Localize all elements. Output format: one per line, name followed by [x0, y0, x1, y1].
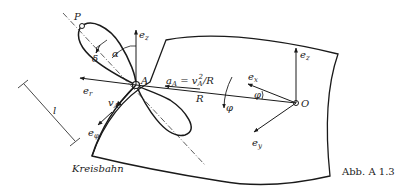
- label-alpha: α: [112, 48, 119, 59]
- label-ephi: eφ: [88, 127, 99, 140]
- va-arrow: [116, 85, 136, 107]
- ey-arrow: [254, 103, 296, 132]
- phi-angle-arc: [262, 91, 263, 99]
- label-p: P: [73, 11, 81, 22]
- label-er: er: [83, 85, 93, 98]
- label-ez-right: ez: [300, 49, 310, 62]
- label-radius: R: [195, 93, 204, 104]
- label-acceleration: aA = vA2/R: [166, 73, 214, 88]
- label-phi-dot: φ: [226, 102, 233, 113]
- length-dimension-line: [24, 84, 75, 141]
- label-ey: ey: [252, 137, 263, 150]
- label-ez-left: ez: [139, 29, 149, 42]
- delta-tick: [96, 40, 107, 48]
- label-ex: ex: [248, 71, 258, 84]
- length-tick-bottom: [70, 138, 80, 146]
- label-a: A: [140, 75, 148, 86]
- figure-caption: Abb. A 1.3: [341, 166, 395, 177]
- label-kreisbahn: Kreisbahn: [71, 163, 124, 174]
- label-o: O: [301, 98, 309, 109]
- physics-diagram: P A ez α δ er R aA = vA2/R vA eφ l Kreis…: [0, 0, 403, 194]
- circular-path: [92, 85, 136, 156]
- label-va: vA: [108, 97, 119, 110]
- petal-upper: [78, 23, 136, 85]
- petal-lower: [136, 85, 191, 135]
- label-phi: φ: [254, 89, 261, 100]
- label-delta: δ: [92, 53, 98, 64]
- label-length: l: [53, 105, 56, 116]
- point-p: [80, 24, 85, 29]
